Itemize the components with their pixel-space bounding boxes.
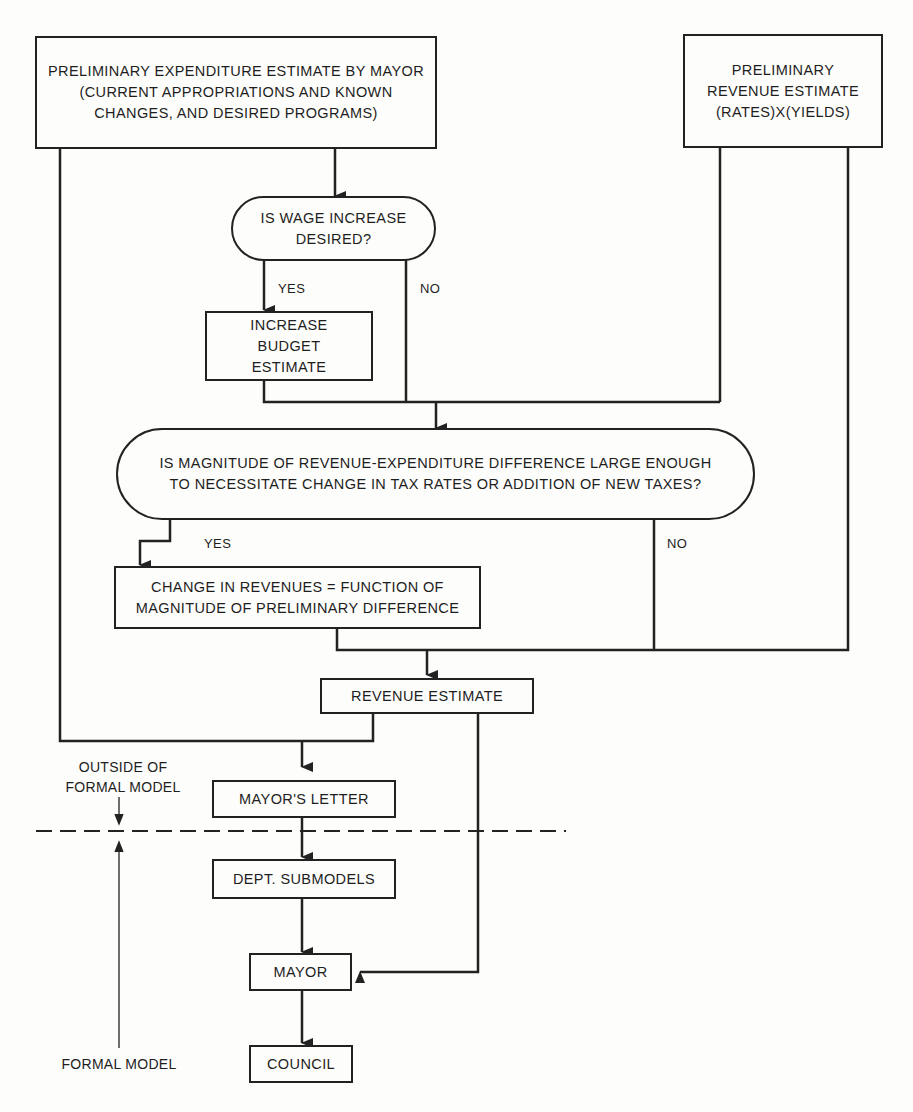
mayors-letter-box: MAYOR'S LETTER xyxy=(212,780,396,818)
wage-increase-decision: IS WAGE INCREASE DESIRED? xyxy=(231,196,436,261)
magnitude-no-label: NO xyxy=(667,536,687,551)
preliminary-revenue-text: PRELIMINARY REVENUE ESTIMATE (RATES)X(YI… xyxy=(699,60,867,123)
outside-formal-model-label: OUTSIDE OF FORMAL MODEL xyxy=(48,757,198,797)
dept-submodels-text: DEPT. SUBMODELS xyxy=(233,869,375,890)
expenditure-estimate-text: PRELIMINARY EXPENDITURE ESTIMATE BY MAYO… xyxy=(47,61,425,124)
connector-lines xyxy=(0,0,913,1112)
council-text: COUNCIL xyxy=(267,1054,335,1075)
dept-submodels-box: DEPT. SUBMODELS xyxy=(212,859,396,899)
formal-model-label: FORMAL MODEL xyxy=(44,1054,194,1074)
mayor-box: MAYOR xyxy=(249,953,352,991)
mayor-text: MAYOR xyxy=(273,962,327,983)
change-revenues-text: CHANGE IN REVENUES = FUNCTION OF MAGNITU… xyxy=(130,577,465,619)
increase-budget-box: INCREASE BUDGET ESTIMATE xyxy=(205,311,373,381)
wage-yes-label: YES xyxy=(278,281,305,296)
revenue-estimate-text: REVENUE ESTIMATE xyxy=(351,686,503,707)
increase-budget-text: INCREASE BUDGET ESTIMATE xyxy=(223,315,355,378)
expenditure-estimate-box: PRELIMINARY EXPENDITURE ESTIMATE BY MAYO… xyxy=(35,36,437,149)
wage-no-label: NO xyxy=(420,281,440,296)
mayors-letter-text: MAYOR'S LETTER xyxy=(239,789,369,810)
preliminary-revenue-box: PRELIMINARY REVENUE ESTIMATE (RATES)X(YI… xyxy=(683,34,883,148)
magnitude-decision: IS MAGNITUDE OF REVENUE-EXPENDITURE DIFF… xyxy=(116,428,755,520)
magnitude-yes-label: YES xyxy=(204,536,231,551)
magnitude-decision-text: IS MAGNITUDE OF REVENUE-EXPENDITURE DIFF… xyxy=(158,453,713,495)
council-box: COUNCIL xyxy=(249,1045,353,1083)
revenue-estimate-box: REVENUE ESTIMATE xyxy=(320,678,534,714)
wage-increase-text: IS WAGE INCREASE DESIRED? xyxy=(259,208,408,250)
change-revenues-box: CHANGE IN REVENUES = FUNCTION OF MAGNITU… xyxy=(114,566,481,629)
